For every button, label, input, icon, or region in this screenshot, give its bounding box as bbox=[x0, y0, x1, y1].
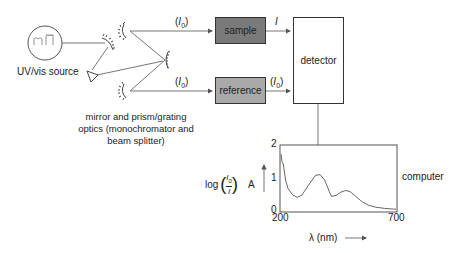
reference-label: reference bbox=[219, 85, 261, 96]
sample-out-label: I bbox=[275, 16, 278, 27]
sample-label: sample bbox=[224, 25, 256, 36]
x-tick-700: 700 bbox=[388, 212, 405, 223]
mirror-icon-right bbox=[166, 51, 170, 68]
sample-box: sample bbox=[215, 17, 266, 44]
optics-caption: mirror and prism/grating optics (monochr… bbox=[56, 111, 216, 147]
y-tick-1: 1 bbox=[271, 172, 277, 183]
x-axis-label: λ (nm) bbox=[309, 232, 337, 243]
optics-caption-line: mirror and prism/grating bbox=[56, 111, 216, 123]
reference-out-label: (I0) bbox=[270, 76, 283, 89]
y-tick-2: 2 bbox=[271, 138, 277, 149]
spectrum-chart bbox=[264, 145, 397, 238]
optics-caption-line: beam splitter) bbox=[56, 135, 216, 147]
reference-box: reference bbox=[215, 77, 266, 104]
x-tick-200: 200 bbox=[272, 212, 289, 223]
mirror-icon-top bbox=[118, 22, 126, 40]
prism-icon bbox=[87, 71, 98, 82]
lamp-icon bbox=[28, 26, 62, 60]
mirror-icon-1 bbox=[102, 34, 115, 50]
source-label: UV/vis source bbox=[17, 66, 79, 77]
detector-box: detector bbox=[293, 17, 344, 104]
uv-vis-spectrometer-diagram: UV/vis source mirror and prism/grating o… bbox=[0, 0, 457, 253]
detector-label: detector bbox=[300, 55, 336, 66]
mirror-icons bbox=[102, 22, 170, 100]
bottom-beam-label: (I0) bbox=[175, 76, 188, 89]
top-beam-label: (I0) bbox=[175, 16, 188, 29]
mirror-icon-bottom bbox=[118, 82, 126, 100]
y-axis-label: log ( I0 I ) A bbox=[205, 173, 255, 196]
computer-label: computer bbox=[402, 171, 444, 182]
optics-caption-line: optics (monochromator and bbox=[56, 123, 216, 135]
